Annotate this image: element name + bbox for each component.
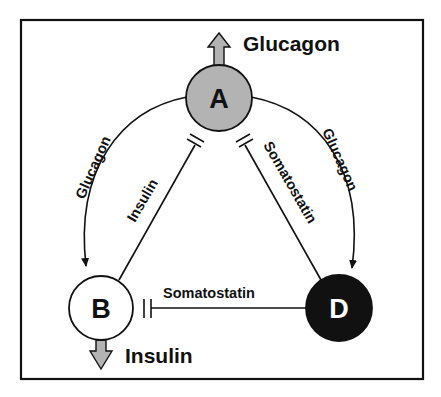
edge-label-somatostatin-horizontal: Somatostatin <box>163 285 255 301</box>
node-b-label: B <box>91 294 111 324</box>
node-a-cell: A <box>186 65 252 131</box>
edge-label-somatostatin-diagonal: Somatostatin <box>260 139 320 227</box>
edge-label-insulin: Insulin <box>124 176 161 224</box>
inhibition-bar <box>190 134 204 142</box>
edge-label-glucagon-left: Glucagon <box>72 134 114 202</box>
edge-label-glucagon-right: Glucagon <box>319 126 361 194</box>
node-d-cell: D <box>306 275 372 341</box>
insulin-secretion-arrow <box>90 340 112 369</box>
node-d-label: D <box>329 294 349 324</box>
insulin-secretion-label: Insulin <box>125 344 193 367</box>
islet-diagram: Glucagon Insulin Glucagon Glucagon Insul… <box>0 0 441 397</box>
glucagon-secretion-label: Glucagon <box>243 32 340 55</box>
inhibition-bar <box>236 134 250 142</box>
node-a-label: A <box>209 84 229 114</box>
glucagon-secretion-arrow <box>208 33 230 66</box>
edge-glucagon-a-to-b <box>84 97 187 266</box>
node-b-cell: B <box>69 276 133 340</box>
